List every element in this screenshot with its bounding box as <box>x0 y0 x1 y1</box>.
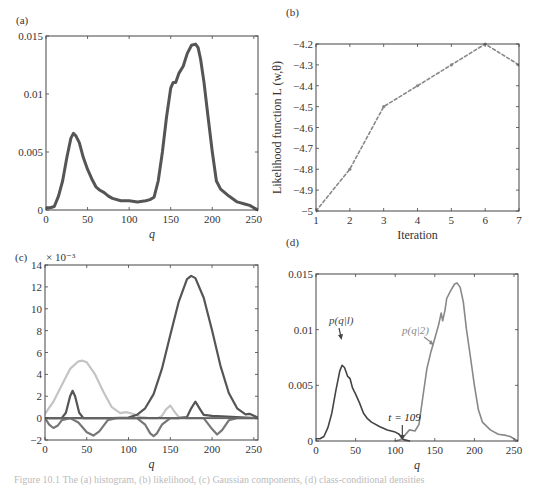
x-tick-label: 150 <box>427 444 444 456</box>
x-tick-label: 100 <box>387 444 404 456</box>
y-tick-label: 0.005 <box>18 146 43 158</box>
axes-frame <box>46 36 258 210</box>
y-tick-label: 6 <box>37 347 43 359</box>
x-tick-label: 7 <box>516 214 522 226</box>
y-tick-label: 0.005 <box>288 379 313 391</box>
y-tick-label: −5 <box>301 205 313 217</box>
y-tick-label: 0 <box>308 435 314 447</box>
x-tick-label: 50 <box>81 443 93 455</box>
series-component-dark-small <box>45 391 258 418</box>
y-tick-label: −4.8 <box>293 163 313 175</box>
y-tick-label: −4.6 <box>293 122 313 134</box>
y-tick-label: −2 <box>30 434 42 446</box>
axes-frame <box>316 44 519 211</box>
y-tick-label: −4.3 <box>293 59 313 71</box>
y-tick-label: −4.5 <box>293 101 313 113</box>
series-component-negative <box>45 418 258 436</box>
x-tick-label: 3 <box>381 214 387 226</box>
panel-label: (a) <box>16 14 29 27</box>
annotation-label: p(q|l) <box>328 314 354 327</box>
x-tick-label: 100 <box>121 213 138 225</box>
plot-area <box>46 44 258 210</box>
series-component-light <box>45 361 258 418</box>
chart-panel-d: (d)t = 109p(q|l)p(q|2)05010015020025000.… <box>286 236 523 472</box>
y-tick-label: 0.01 <box>24 88 43 100</box>
threshold-label: t = 109 <box>388 411 421 423</box>
x-tick-label: 200 <box>204 443 221 455</box>
x-tick-label: 5 <box>449 214 455 226</box>
x-tick-label: 0 <box>43 213 49 225</box>
chart-panel-a: (a)05010015020025000.0050.010.015q <box>16 14 263 241</box>
x-tick-label: 0 <box>313 444 319 456</box>
y-tick-label: −4.4 <box>293 80 313 92</box>
panel-label: (d) <box>286 236 299 249</box>
x-axis-label: Iteration <box>397 228 438 242</box>
figure-caption: Figure 10.1 The (a) histogram, (b) likel… <box>14 474 534 485</box>
x-tick-label: 2 <box>347 214 353 226</box>
series-component-dark-large <box>45 276 258 418</box>
x-tick-label: 4 <box>415 214 421 226</box>
x-axis-label: q <box>149 227 155 241</box>
chart-panel-c: (c)050100150200250−202468101214× 10⁻³q <box>15 251 263 471</box>
annotation-label: p(q|2) <box>401 324 429 337</box>
data-point-marker <box>450 63 453 66</box>
series-histogram <box>46 44 258 210</box>
y-tick-label: −4.2 <box>293 38 313 50</box>
y-tick-label: −4.9 <box>293 184 313 196</box>
y-tick-label: 0 <box>37 412 43 424</box>
y-tick-label: 0.015 <box>18 30 43 42</box>
x-tick-label: 6 <box>482 214 488 226</box>
series-likelihood <box>316 44 519 211</box>
y-tick-label: 0.01 <box>294 324 313 336</box>
x-tick-label: 50 <box>82 213 94 225</box>
panel-label: (b) <box>286 6 299 19</box>
panel-label: (c) <box>15 251 28 264</box>
y-tick-label: −4.7 <box>293 142 313 154</box>
series-p-q-1- <box>316 365 410 441</box>
x-tick-label: 250 <box>246 213 263 225</box>
y-tick-label: 10 <box>31 303 43 315</box>
y-tick-label: 0.015 <box>288 268 313 280</box>
y-tick-label: 12 <box>31 281 42 293</box>
y-tick-label: 14 <box>31 259 43 271</box>
y-tick-label: 8 <box>37 325 43 337</box>
plot-area <box>45 276 258 436</box>
x-tick-label: 0 <box>42 443 48 455</box>
x-tick-label: 200 <box>204 213 221 225</box>
x-tick-label: 150 <box>162 213 179 225</box>
data-point-marker <box>416 84 419 87</box>
plot-area <box>314 42 520 212</box>
x-tick-label: 250 <box>506 444 523 456</box>
x-tick-label: 150 <box>162 443 179 455</box>
x-tick-label: 1 <box>313 214 319 226</box>
y-scale-note: × 10⁻³ <box>46 251 76 263</box>
y-tick-label: 4 <box>37 368 43 380</box>
x-tick-label: 100 <box>120 443 137 455</box>
arrowhead-icon <box>338 334 343 340</box>
y-axis-label: Likelihood function L (w,θ) <box>270 61 284 194</box>
y-tick-label: 2 <box>37 390 43 402</box>
y-tick-label: 0 <box>38 204 44 216</box>
x-axis-label: q <box>149 457 155 471</box>
x-tick-label: 250 <box>246 443 263 455</box>
x-axis-label: q <box>414 458 420 472</box>
x-tick-label: 50 <box>350 444 362 456</box>
data-point-marker <box>348 168 351 171</box>
data-point-marker <box>382 105 385 108</box>
x-tick-label: 200 <box>466 444 483 456</box>
chart-panel-b: (b)1234567−5−4.9−4.8−4.7−4.6−4.5−4.4−4.3… <box>270 6 522 242</box>
axes-frame <box>45 265 258 440</box>
